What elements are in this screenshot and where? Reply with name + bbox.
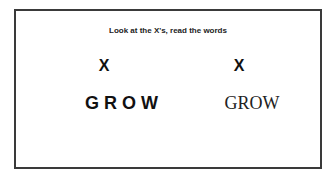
right-word-serif: GROW [202,93,302,114]
right-x-mark: X [219,57,259,75]
left-word-sans: GROW [69,93,179,114]
instruction-title: Look at the X's, read the words [16,26,320,35]
left-x-mark: X [84,57,124,75]
figure-frame: Look at the X's, read the words X X GROW… [14,9,322,169]
